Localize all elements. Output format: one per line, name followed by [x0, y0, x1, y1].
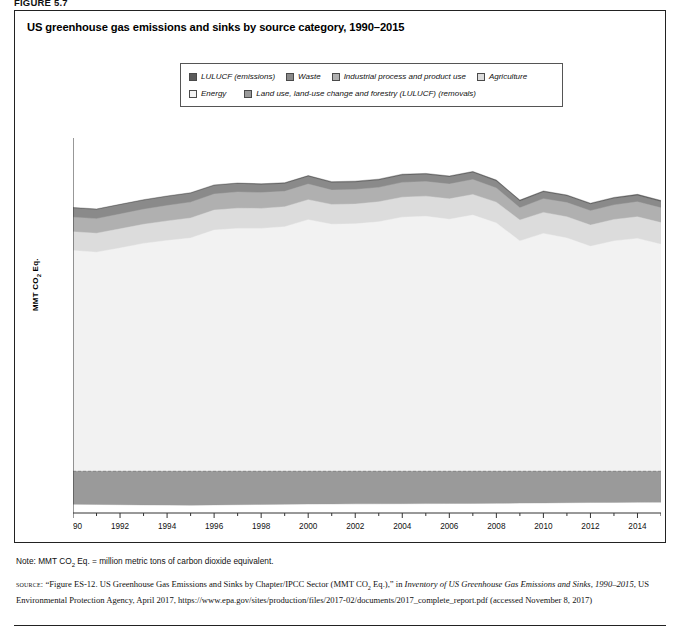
chart-note: Note: MMT CO2 Eq. = million metric tons … — [16, 556, 274, 568]
chart-plot-area: –1,00001,0002,0003,0004,0005,0006,0007,0… — [73, 138, 661, 544]
legend-row-2: Energy Land use, land-use change and for… — [189, 86, 554, 101]
chart-legend: LULUCF (emissions) Waste Industrial proc… — [180, 63, 563, 107]
legend-item-industrial-process[interactable]: Industrial process and product use — [332, 73, 466, 81]
note-suffix: Eq. = million metric tons of carbon diox… — [75, 556, 274, 566]
x-axis-tick-label: 2004 — [393, 522, 412, 531]
legend-swatch-energy — [189, 90, 197, 98]
x-axis-tick-label: 2010 — [534, 522, 553, 531]
x-axis-tick-label: 1996 — [205, 522, 224, 531]
x-axis-tick-label: 2006 — [440, 522, 459, 531]
legend-item-waste[interactable]: Waste — [286, 73, 321, 81]
chart-source: source: “Figure ES-12. US Greenhouse Gas… — [16, 578, 652, 607]
legend-item-energy[interactable]: Energy — [189, 90, 226, 98]
area-chart: –1,00001,0002,0003,0004,0005,0006,0007,0… — [73, 138, 661, 544]
legend-swatch-lulucf-emissions — [189, 73, 197, 81]
x-axis-tick-label: 1998 — [252, 522, 271, 531]
source-text-2: Eq.),” in — [371, 579, 405, 589]
legend-item-agriculture[interactable]: Agriculture — [477, 73, 527, 81]
chart-title: US greenhouse gas emissions and sinks by… — [27, 21, 404, 33]
legend-label-industrial-process: Industrial process and product use — [344, 73, 466, 81]
legend-row-1: LULUCF (emissions) Waste Industrial proc… — [189, 69, 554, 84]
x-axis-tick-label: 2002 — [346, 522, 365, 531]
legend-swatch-agriculture — [477, 73, 485, 81]
source-text-1: “Figure ES-12. US Greenhouse Gas Emissio… — [46, 579, 368, 589]
legend-label-energy: Energy — [201, 90, 226, 98]
x-axis-tick-label: 2012 — [581, 522, 600, 531]
source-label: source: — [16, 580, 43, 589]
legend-item-lulucf-removals[interactable]: Land use, land-use change and forestry (… — [244, 90, 476, 98]
x-axis-tick-label: 2008 — [487, 522, 506, 531]
legend-swatch-waste — [286, 73, 294, 81]
y-axis-title: MMT CO2 Eq. — [31, 258, 42, 311]
bottom-rule — [14, 625, 666, 626]
x-axis-tick-label: 2000 — [299, 522, 318, 531]
x-axis-tick-label: 1994 — [158, 522, 177, 531]
x-axis-tick-label: 1990 — [73, 522, 83, 531]
legend-label-lulucf-removals: Land use, land-use change and forestry (… — [256, 90, 476, 98]
x-axis-tick-label: 1992 — [111, 522, 130, 531]
legend-item-lulucf-emissions[interactable]: LULUCF (emissions) — [189, 73, 275, 81]
legend-label-lulucf-emissions: LULUCF (emissions) — [201, 73, 275, 81]
note-prefix: Note: MMT CO — [16, 556, 72, 566]
source-italic-title: Inventory of US Greenhouse Gas Emissions… — [405, 579, 634, 589]
x-axis-tick-label: 2014 — [628, 522, 647, 531]
legend-label-waste: Waste — [298, 73, 321, 81]
figure-label: FIGURE 5.7 — [14, 0, 68, 8]
legend-label-agriculture: Agriculture — [489, 73, 527, 81]
legend-swatch-lulucf-removals — [244, 90, 252, 98]
legend-swatch-industrial-process — [332, 73, 340, 81]
figure-panel: US greenhouse gas emissions and sinks by… — [14, 10, 666, 543]
